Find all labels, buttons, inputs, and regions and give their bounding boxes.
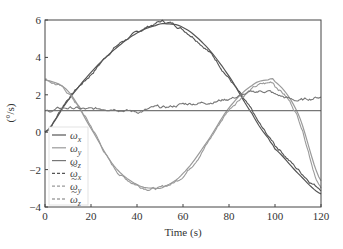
- y-tick-label: 2: [36, 89, 42, 101]
- line-chart: 020406080100120−4−20246 Time (s) (°/s) ω…: [0, 0, 343, 249]
- x-tick-label: 40: [132, 210, 144, 222]
- y-axis-label: (°/s): [4, 103, 17, 122]
- y-tick-label: −4: [29, 201, 41, 213]
- x-tick-label: 0: [42, 210, 48, 222]
- x-tick-label: 20: [86, 210, 98, 222]
- y-tick-label: 6: [36, 14, 42, 26]
- legend-tilde: ~: [71, 159, 77, 171]
- y-tick-label: 4: [36, 51, 42, 63]
- x-tick-label: 60: [178, 210, 190, 222]
- y-tick-label: 0: [36, 126, 42, 138]
- legend: ωxωyωzωx~ωy~ωz~: [49, 127, 88, 208]
- legend-box: [49, 127, 88, 205]
- x-tick-label: 120: [313, 210, 330, 222]
- legend-tilde: ~: [71, 172, 77, 184]
- x-tick-label: 100: [267, 210, 284, 222]
- x-tick-label: 80: [224, 210, 236, 222]
- legend-tilde: ~: [71, 185, 77, 197]
- y-tick-label: −2: [29, 164, 41, 176]
- x-axis-label: Time (s): [164, 226, 202, 239]
- series-line: [45, 91, 321, 114]
